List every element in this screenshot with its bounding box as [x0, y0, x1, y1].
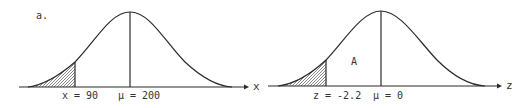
right-cutoff-label: z = -2.2 — [313, 90, 361, 101]
normal-distribution-figure: a. x x = 90 μ = 200 A z z = -2.2 μ = 0 — [0, 0, 520, 108]
area-label: A — [351, 56, 357, 67]
left-axis-arrow-icon — [244, 85, 249, 90]
left-cutoff-label: x = 90 — [62, 90, 98, 101]
right-axis-arrow-icon — [497, 84, 502, 89]
left-normal-curve: x x = 90 μ = 200 — [19, 12, 260, 101]
right-normal-curve: A z z = -2.2 μ = 0 — [268, 11, 513, 101]
left-axis-label: x — [253, 80, 260, 93]
left-shaded-tail — [30, 62, 75, 87]
panel-label: a. — [36, 10, 48, 21]
right-mean-label: μ = 0 — [373, 90, 403, 101]
left-mean-label: μ = 200 — [118, 90, 160, 101]
right-axis-label: z — [506, 79, 513, 92]
right-shaded-tail — [280, 60, 326, 86]
